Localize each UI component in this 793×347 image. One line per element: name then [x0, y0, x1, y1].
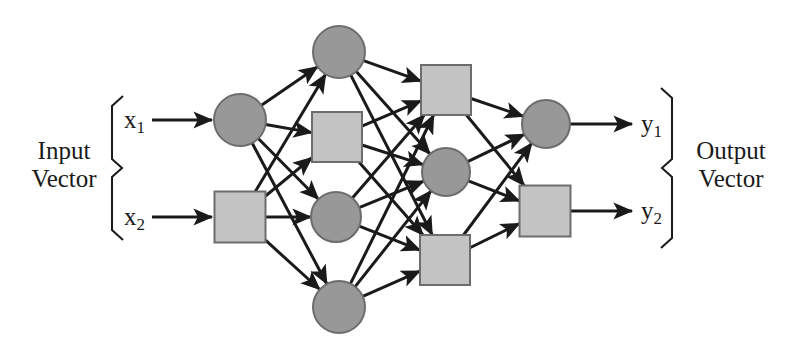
output-label-y2: y2	[641, 197, 662, 229]
connection-edge	[468, 134, 525, 161]
connection-edge	[468, 181, 519, 201]
node-o2-square	[520, 186, 571, 237]
output-label-y1-sub: 1	[654, 122, 663, 141]
output-vector-label: Output Vector	[672, 137, 790, 193]
node-o1-circle	[522, 100, 570, 148]
edges-group	[252, 61, 532, 297]
connection-edge	[470, 223, 520, 247]
connection-edge	[471, 99, 523, 117]
node-h2-square	[312, 112, 362, 162]
input-label-x1: x1	[124, 106, 145, 138]
connection-edge	[266, 240, 320, 289]
node-g1-square	[421, 65, 471, 115]
input-label-x1-base: x	[124, 106, 137, 133]
input-vector-label: Input Vector	[8, 137, 120, 193]
connection-edge	[266, 124, 312, 132]
output-label-y2-sub: 2	[654, 209, 663, 228]
input-label-x2-base: x	[124, 203, 137, 230]
node-i2-square	[215, 192, 266, 243]
input-label-x2: x2	[124, 203, 145, 235]
output-label-y1: y1	[641, 110, 662, 142]
output-label-y2-base: y	[641, 197, 654, 224]
input-label-x1-sub: 1	[137, 118, 146, 137]
output-label-y1-base: y	[641, 110, 654, 137]
node-i1-circle	[214, 94, 266, 146]
connection-edge	[363, 271, 420, 296]
neural-network-figure: Input Vector Output Vector x1 x2 y1 y2	[0, 0, 793, 347]
node-h4-circle	[313, 281, 365, 333]
node-h1-circle	[313, 26, 365, 78]
output-brace	[661, 88, 672, 248]
connection-edge	[466, 115, 524, 186]
input-label-x2-sub: 2	[137, 215, 146, 234]
node-g3-square	[420, 235, 470, 285]
node-h3-circle	[311, 192, 361, 242]
node-g2-circle	[422, 148, 470, 196]
connection-edge	[364, 61, 421, 81]
